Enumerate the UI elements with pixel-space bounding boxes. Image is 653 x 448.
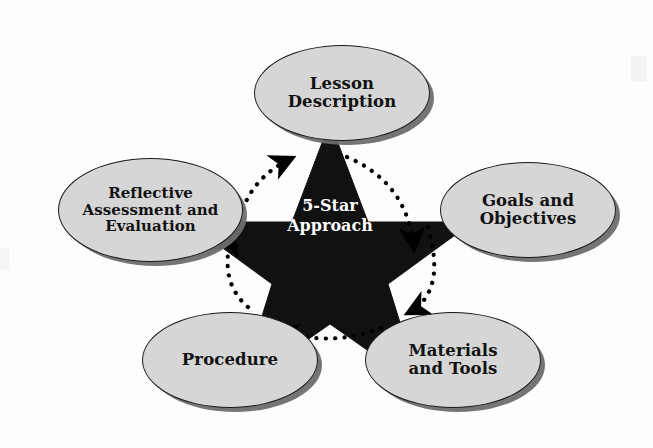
node-goals-and-objectives-label: Goals and Objectives	[474, 192, 583, 229]
node-procedure[interactable]: Procedure	[142, 312, 318, 408]
node-materials-and-tools-line1: Materials	[408, 342, 497, 360]
node-lesson-description-line2: Description	[288, 93, 397, 111]
diagram-canvas: 5-Star Approach Lesson Description Goals…	[0, 0, 653, 448]
node-reflective-assessment-line3: Evaluation	[83, 218, 219, 235]
node-reflective-assessment-line2: Assessment and	[83, 202, 219, 219]
node-procedure-line1: Procedure	[182, 351, 278, 369]
node-goals-and-objectives-line1: Goals and	[480, 192, 577, 210]
node-goals-and-objectives[interactable]: Goals and Objectives	[440, 162, 616, 258]
node-lesson-description-label: Lesson Description	[282, 75, 403, 112]
node-lesson-description-line1: Lesson	[288, 75, 397, 93]
node-reflective-assessment-label: Reflective Assessment and Evaluation	[77, 185, 225, 235]
node-lesson-description[interactable]: Lesson Description	[254, 45, 430, 141]
node-materials-and-tools-line2: and Tools	[408, 360, 497, 378]
node-materials-and-tools[interactable]: Materials and Tools	[365, 312, 541, 408]
node-reflective-assessment-line1: Reflective	[83, 185, 219, 202]
node-procedure-label: Procedure	[176, 351, 284, 369]
node-reflective-assessment-and-evaluation[interactable]: Reflective Assessment and Evaluation	[58, 158, 243, 262]
node-materials-and-tools-label: Materials and Tools	[402, 342, 503, 379]
node-goals-and-objectives-line2: Objectives	[480, 210, 577, 228]
